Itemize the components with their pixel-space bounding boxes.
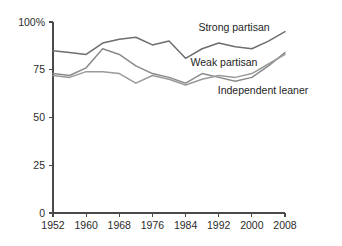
x-axis-ticks: 19521960196819761984199220002008 — [41, 213, 297, 231]
x-tick-label: 2008 — [273, 219, 297, 231]
y-tick-label: 25 — [33, 159, 45, 171]
x-tick-label: 1984 — [174, 219, 198, 231]
line-chart: 0255075100% 1952196019681976198419922000… — [0, 0, 342, 246]
x-tick-label: 1992 — [207, 219, 231, 231]
axis-lines — [53, 22, 285, 213]
series-line — [53, 32, 285, 59]
chart-canvas: 0255075100% 1952196019681976198419922000… — [0, 0, 342, 246]
series-label: Independent leaner — [218, 84, 309, 96]
y-tick-label: 50 — [33, 111, 45, 123]
x-tick-label: 1976 — [141, 219, 165, 231]
x-tick-label: 1960 — [74, 219, 98, 231]
x-tick-label: 1968 — [108, 219, 132, 231]
y-tick-label: 75 — [33, 63, 45, 75]
x-tick-label: 1952 — [41, 219, 65, 231]
series-label: Weak partisan — [191, 56, 258, 68]
series-annotations: Strong partisanWeak partisanIndependent … — [191, 21, 309, 96]
y-tick-label: 100% — [18, 16, 45, 28]
x-tick-label: 2000 — [240, 219, 264, 231]
y-tick-label: 0 — [39, 207, 45, 219]
series-label: Strong partisan — [198, 21, 269, 33]
y-axis-ticks: 0255075100% — [18, 16, 53, 219]
